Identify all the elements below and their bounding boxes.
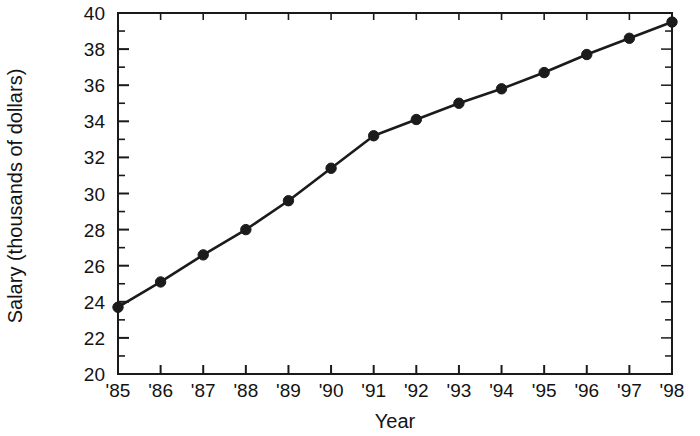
y-tick-label: 30 [84,184,105,205]
salary-line-chart: 2022242628303234363840 '85'86'87'88'89'9… [0,0,700,436]
x-tick-label: '89 [276,380,301,401]
y-tick-label: 26 [84,256,105,277]
y-tick-label: 22 [84,328,105,349]
data-point-marker [198,250,208,260]
data-point-marker [241,224,251,234]
y-tick-label: 36 [84,75,105,96]
y-axis-title: Salary (thousands of dollars) [4,69,26,324]
x-axis-tick-labels: '85'86'87'88'89'90'91'92'93'94'95'96'97'… [106,380,685,401]
x-axis-ticks [118,365,672,374]
x-tick-label: '96 [574,380,599,401]
chart-canvas: 2022242628303234363840 '85'86'87'88'89'9… [0,0,700,436]
y-tick-label: 32 [84,147,105,168]
x-tick-label: '95 [532,380,557,401]
data-point-marker [368,131,378,141]
salary-series-line [118,22,672,307]
data-point-marker [454,98,464,108]
salary-series-markers [113,17,677,313]
x-tick-label: '91 [361,380,386,401]
x-tick-label: '85 [106,380,131,401]
x-axis-top-ticks [118,13,672,20]
y-tick-label: 38 [84,39,105,60]
data-point-marker [496,84,506,94]
x-tick-label: '98 [660,380,685,401]
y-tick-label: 40 [84,3,105,24]
x-tick-label: '92 [404,380,429,401]
y-tick-label: 20 [84,364,105,385]
y-axis-tick-labels: 2022242628303234363840 [84,3,106,385]
y-tick-label: 24 [84,292,106,313]
data-point-marker [667,17,677,27]
y-tick-label: 28 [84,220,105,241]
data-point-marker [411,114,421,124]
y-axis-right-ticks [661,13,672,374]
y-tick-label: 34 [84,111,106,132]
data-point-marker [624,33,634,43]
data-point-marker [326,163,336,173]
data-point-marker [582,49,592,59]
data-point-marker [283,196,293,206]
x-tick-label: '97 [617,380,642,401]
x-tick-label: '94 [489,380,514,401]
plot-frame [118,13,672,374]
x-tick-label: '93 [447,380,472,401]
x-tick-label: '86 [148,380,173,401]
data-point-marker [113,302,123,312]
x-tick-label: '88 [233,380,258,401]
x-axis-title: Year [375,410,416,432]
x-tick-label: '87 [191,380,216,401]
data-point-marker [539,67,549,77]
data-point-marker [155,277,165,287]
x-tick-label: '90 [319,380,344,401]
